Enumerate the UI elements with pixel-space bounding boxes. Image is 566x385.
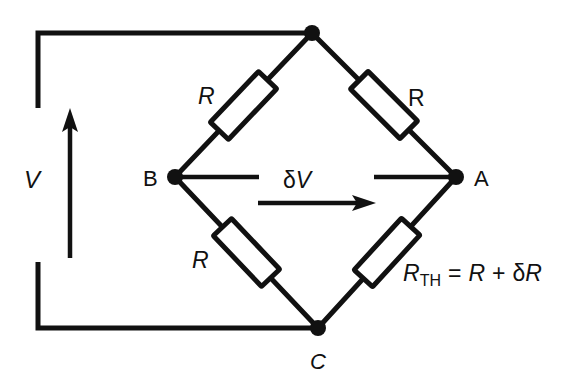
delta-v-label-v: V xyxy=(296,167,314,193)
node-a-dot xyxy=(448,169,464,185)
resistor-top-left-label: R xyxy=(198,83,215,109)
equation-equals: = xyxy=(448,260,461,286)
circuit-diagram-figure: V R R R xyxy=(0,0,566,385)
delta-v-label: δV xyxy=(283,167,314,193)
node-b-label: B xyxy=(143,166,158,191)
node-c-label: C xyxy=(310,349,326,374)
resistor-top-left xyxy=(210,72,276,140)
node-b-dot xyxy=(167,169,183,185)
resistor-top-right-label: R xyxy=(408,85,425,111)
node-c-dot xyxy=(310,320,326,336)
voltage-arrow xyxy=(62,108,78,258)
bridge-nodes xyxy=(167,25,464,336)
resistor-bottom-left xyxy=(213,219,279,287)
delta-v-label-delta: δ xyxy=(283,167,296,193)
equation-plus: + xyxy=(492,260,505,286)
node-a-label: A xyxy=(474,166,489,191)
delta-v-arrow xyxy=(258,195,376,211)
equation-subscript: TH xyxy=(420,272,441,289)
thevenin-equation: RTH=R+δR xyxy=(403,260,542,289)
node-top-dot xyxy=(304,25,320,41)
resistor-top-left-body xyxy=(210,72,276,140)
resistor-bottom-left-body xyxy=(213,219,279,287)
voltage-label: V xyxy=(24,166,42,193)
equation-delta: δ xyxy=(512,260,525,286)
equation-term-one: R xyxy=(468,260,485,286)
equation-symbol: R xyxy=(403,260,420,286)
circuit-svg: V R R R xyxy=(0,0,566,385)
equation-term-two: R xyxy=(525,260,542,286)
resistor-bottom-left-label: R xyxy=(192,247,209,273)
